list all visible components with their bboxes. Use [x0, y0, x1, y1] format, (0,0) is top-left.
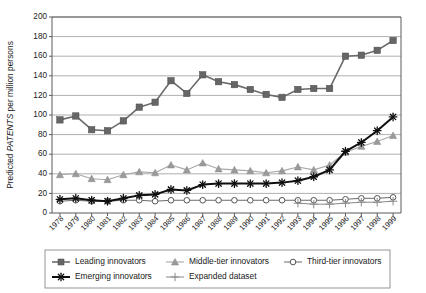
legend-label: Emerging innovators: [75, 271, 152, 281]
x-axis-tick-label: 1998: [364, 214, 382, 232]
marker-filled-square: [247, 86, 253, 92]
y-axis-tick-label: 100: [33, 110, 47, 119]
marker-open-circle: [216, 197, 222, 203]
marker-filled-square: [57, 117, 63, 123]
x-axis-tick-label: 1995: [317, 214, 335, 232]
marker-asterisk: [183, 187, 191, 195]
marker-asterisk: [215, 180, 223, 188]
marker-filled-triangle: [199, 159, 206, 166]
marker-asterisk: [389, 113, 397, 121]
y-axis-tick-label: 200: [33, 12, 47, 21]
marker-filled-square: [152, 99, 158, 105]
x-axis-tick-label: 1978: [47, 214, 65, 232]
marker-open-circle: [168, 197, 174, 203]
y-axis-title: Predicted PATENTS per million persons: [5, 41, 15, 189]
data-series-group: [56, 37, 397, 208]
marker-filled-triangle: [374, 138, 381, 145]
legend-label: Expanded dataset: [189, 271, 257, 281]
y-axis-tick-label: 40: [38, 169, 48, 178]
marker-filled-square: [104, 127, 110, 133]
marker-filled-square: [168, 78, 174, 84]
marker-filled-square: [295, 86, 301, 92]
x-axis-tick-label: 1989: [222, 214, 240, 232]
x-axis-tick-label: 1980: [79, 214, 97, 232]
marker-filled-square: [390, 37, 396, 43]
marker-filled-triangle: [389, 132, 396, 139]
marker-asterisk: [104, 197, 112, 205]
y-axis-label-text: Predicted PATENTS per million persons: [5, 41, 15, 189]
x-axis-tick-label: 1996: [333, 214, 351, 232]
marker-filled-square: [58, 259, 64, 265]
marker-filled-triangle: [167, 161, 174, 168]
marker-asterisk: [246, 180, 254, 188]
x-axis-tick-label: 1999: [380, 214, 398, 232]
y-axis-tick-label: 180: [33, 32, 47, 41]
y-axis-tick-label: 140: [33, 71, 47, 80]
marker-asterisk: [88, 196, 96, 204]
x-axis-tick-label: 1988: [206, 214, 224, 232]
marker-asterisk: [358, 139, 366, 147]
x-axis-tick-label: 1993: [285, 214, 303, 232]
marker-open-circle: [290, 259, 296, 265]
marker-filled-square: [215, 78, 221, 84]
series-leading-innovators: [57, 37, 397, 134]
x-axis-tick-label: 1991: [253, 214, 271, 232]
patents-line-chart: 020406080100120140160180200 197819791980…: [0, 0, 426, 293]
x-axis-tick-label: 1987: [190, 214, 208, 232]
chart-figure: 020406080100120140160180200 197819791980…: [0, 0, 426, 293]
marker-filled-square: [73, 113, 79, 119]
marker-open-circle: [152, 198, 158, 204]
x-axis-tick-label: 1990: [237, 214, 255, 232]
marker-filled-square: [326, 85, 332, 91]
marker-filled-square: [120, 118, 126, 124]
series-line: [60, 136, 393, 180]
x-axis-tick-label: 1981: [95, 214, 113, 232]
series-middle-tier-innovators: [56, 132, 396, 183]
marker-asterisk: [167, 186, 175, 194]
marker-asterisk: [231, 180, 239, 188]
legend-label: Leading innovators: [75, 256, 146, 266]
marker-asterisk: [120, 195, 128, 203]
marker-filled-square: [88, 127, 94, 133]
marker-filled-square: [311, 85, 317, 91]
y-axis-tick-label: 120: [33, 91, 47, 100]
x-axis-tick-label: 1986: [174, 214, 192, 232]
chart-legend: Leading innovatorsMiddle-tier innovators…: [45, 250, 390, 288]
marker-filled-square: [263, 91, 269, 97]
marker-asterisk: [294, 177, 302, 185]
marker-asterisk: [151, 191, 159, 199]
series-emerging-innovators: [56, 113, 397, 205]
marker-filled-square: [358, 52, 364, 58]
marker-asterisk: [326, 166, 334, 174]
y-axis-tick-label: 60: [38, 149, 48, 158]
marker-open-circle: [263, 197, 269, 203]
marker-asterisk: [342, 147, 350, 155]
marker-open-circle: [184, 197, 190, 203]
marker-asterisk: [56, 195, 64, 203]
marker-asterisk: [278, 179, 286, 187]
marker-filled-square: [184, 90, 190, 96]
x-axis-tick-label: 1994: [301, 214, 319, 232]
marker-filled-triangle: [294, 163, 301, 170]
x-axis-tick-label: 1997: [348, 214, 366, 232]
x-axis-tick-label: 1984: [142, 214, 160, 232]
marker-open-circle: [247, 197, 253, 203]
marker-open-circle: [279, 197, 285, 203]
marker-asterisk: [57, 273, 65, 281]
marker-open-circle: [200, 197, 206, 203]
marker-filled-square: [374, 47, 380, 53]
x-axis-tick-label: 1992: [269, 214, 287, 232]
marker-asterisk: [72, 195, 80, 203]
grid-lines: [52, 17, 401, 193]
y-axis-tick-label: 80: [38, 130, 48, 139]
marker-filled-square: [136, 104, 142, 110]
x-axis-tick-labels: 1978197919801981198219831984198519861987…: [47, 213, 398, 232]
marker-asterisk: [262, 180, 270, 188]
marker-open-circle: [232, 197, 238, 203]
x-axis-tick-label: 1985: [158, 214, 176, 232]
marker-filled-square: [200, 72, 206, 78]
marker-filled-square: [342, 53, 348, 59]
x-axis-tick-label: 1979: [63, 214, 81, 232]
y-axis-tick-label: 20: [38, 189, 48, 198]
x-axis-tick-label: 1983: [126, 214, 144, 232]
